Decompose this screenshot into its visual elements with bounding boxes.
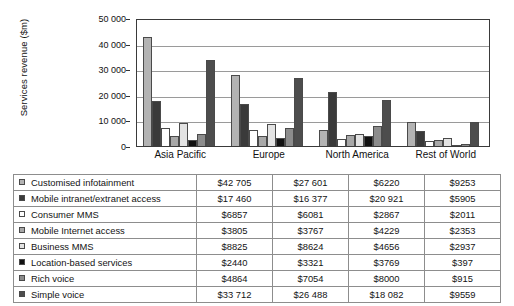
y-tick-mark — [126, 19, 130, 20]
bar — [197, 134, 206, 146]
value-cell: $915 — [425, 271, 501, 287]
table-row: Business MMS$8825$8624$4656$2937 — [14, 239, 501, 255]
plot-area — [136, 19, 490, 147]
value-cell: $8825 — [197, 239, 273, 255]
value-cell: $9253 — [425, 175, 501, 191]
value-cell: $4656 — [349, 239, 425, 255]
bar — [373, 126, 382, 146]
series-name: Simple voice — [31, 289, 84, 300]
table-row: Consumer MMS$6857$6081$2867$2011 — [14, 207, 501, 223]
value-cell: $3767 — [273, 223, 349, 239]
y-tick-label: 20 000 — [98, 91, 126, 101]
value-cell: $2937 — [425, 239, 501, 255]
bar — [152, 101, 161, 146]
value-cell: $4229 — [349, 223, 425, 239]
value-cell: $2353 — [425, 223, 501, 239]
series-name: Mobile intranet/extranet access — [31, 193, 161, 204]
value-cell: $3321 — [273, 255, 349, 271]
legend-swatch-icon — [19, 195, 25, 201]
value-cell: $18 082 — [349, 287, 425, 303]
bar-group — [225, 20, 313, 146]
bar — [425, 141, 434, 146]
series-label-cell: Location-based services — [14, 255, 197, 271]
bar — [249, 130, 258, 146]
bar — [461, 144, 470, 146]
series-name: Business MMS — [31, 241, 94, 252]
legend-swatch-icon — [19, 243, 25, 249]
bar — [470, 122, 479, 146]
value-cell: $16 377 — [273, 191, 349, 207]
y-tick-label: 30 000 — [98, 65, 126, 75]
bar — [319, 130, 328, 146]
bar — [276, 138, 285, 147]
value-cell: $3769 — [349, 255, 425, 271]
bar-group — [313, 20, 401, 146]
bar-group — [401, 20, 489, 146]
bar — [285, 128, 294, 146]
bar — [328, 92, 337, 146]
series-name: Location-based services — [31, 257, 132, 268]
value-cell: $2440 — [197, 255, 273, 271]
legend-swatch-icon — [19, 275, 25, 281]
series-label-cell: Consumer MMS — [14, 207, 197, 223]
value-cell: $2867 — [349, 207, 425, 223]
x-axis-tick-labels: Asia PacificEuropeNorth AmericaRest of W… — [136, 149, 490, 160]
x-tick-label: North America — [313, 149, 402, 160]
y-tick-mark — [126, 121, 130, 122]
y-tick-label: 50 000 — [98, 14, 126, 24]
y-tick-mark — [126, 45, 130, 46]
value-cell: $9559 — [425, 287, 501, 303]
value-cell: $26 488 — [273, 287, 349, 303]
bars-layer — [137, 20, 489, 146]
x-tick-label: Asia Pacific — [136, 149, 225, 160]
bar — [170, 136, 179, 146]
series-label-cell: Mobile intranet/extranet access — [14, 191, 197, 207]
bar — [355, 134, 364, 146]
bar — [407, 122, 416, 146]
table-row: Simple voice$33 712$26 488$18 082$9559 — [14, 287, 501, 303]
y-tick-label: 10 000 — [98, 116, 126, 126]
bar-group — [137, 20, 225, 146]
bar — [206, 60, 215, 146]
value-cell: $42 705 — [197, 175, 273, 191]
x-tick-label: Rest of World — [402, 149, 491, 160]
value-cell: $2011 — [425, 207, 501, 223]
bar — [240, 104, 249, 146]
value-cell: $6220 — [349, 175, 425, 191]
table-row: Mobile Internet access$3805$3767$4229$23… — [14, 223, 501, 239]
value-cell: $6081 — [273, 207, 349, 223]
chart-figure: Services revenue ($m) 010 00020 00030 00… — [0, 0, 514, 166]
data-table-container: Customised infotainment$42 705$27 601$62… — [13, 174, 501, 303]
bar — [434, 140, 443, 146]
table-row: Location-based services$2440$3321$3769$3… — [14, 255, 501, 271]
bar — [143, 37, 152, 146]
table-row: Rich voice$4864$7054$8000$915 — [14, 271, 501, 287]
value-cell: $27 601 — [273, 175, 349, 191]
series-value-table: Customised infotainment$42 705$27 601$62… — [13, 174, 501, 303]
series-name: Customised infotainment — [31, 177, 134, 188]
bar — [443, 138, 452, 146]
value-cell: $4864 — [197, 271, 273, 287]
bar — [231, 75, 240, 146]
table-row: Mobile intranet/extranet access$17 460$1… — [14, 191, 501, 207]
y-tick-label: 40 000 — [98, 40, 126, 50]
bar — [416, 131, 425, 146]
y-axis-tick-labels: 010 00020 00030 00040 00050 000 — [78, 14, 130, 150]
bar — [452, 145, 461, 146]
bar — [179, 123, 188, 146]
table-body: Customised infotainment$42 705$27 601$62… — [14, 175, 501, 303]
bar — [161, 128, 170, 146]
series-label-cell: Mobile Internet access — [14, 223, 197, 239]
bar — [258, 136, 267, 146]
value-cell: $3805 — [197, 223, 273, 239]
legend-swatch-icon — [19, 211, 25, 217]
bar — [346, 135, 355, 146]
series-label-cell: Rich voice — [14, 271, 197, 287]
value-cell: $5905 — [425, 191, 501, 207]
value-cell: $17 460 — [197, 191, 273, 207]
table-row: Customised infotainment$42 705$27 601$62… — [14, 175, 501, 191]
value-cell: $6857 — [197, 207, 273, 223]
value-cell: $397 — [425, 255, 501, 271]
series-label-cell: Business MMS — [14, 239, 197, 255]
y-axis-title: Services revenue ($m) — [18, 0, 29, 138]
